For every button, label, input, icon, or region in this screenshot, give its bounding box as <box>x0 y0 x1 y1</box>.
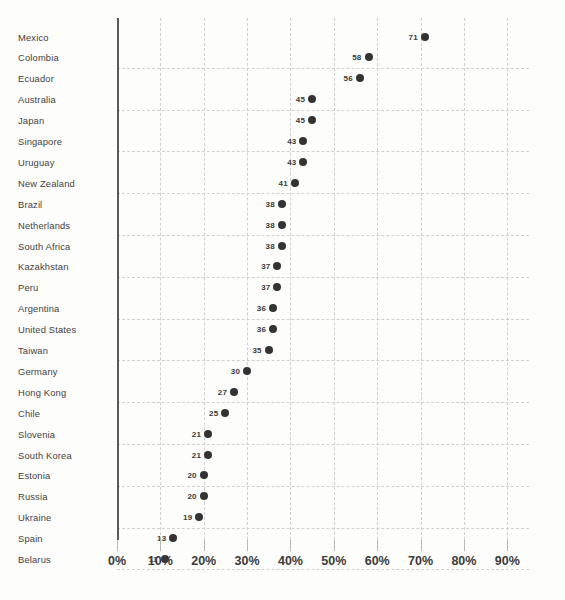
vertical-gridline-60pct <box>377 18 378 540</box>
x-axis-tick-mark <box>464 540 465 551</box>
data-point-dot[interactable] <box>195 513 203 521</box>
category-label: New Zealand <box>18 177 112 188</box>
data-point-value-label: 38 <box>265 220 274 229</box>
data-point-dot[interactable] <box>278 242 286 250</box>
data-point-dot[interactable] <box>204 451 212 459</box>
data-point-value-label: 38 <box>265 241 274 250</box>
data-point-value-label: 43 <box>287 157 296 166</box>
data-point-value-label: 45 <box>296 116 305 125</box>
category-label: Uruguay <box>18 156 112 167</box>
data-point-value-label: 37 <box>261 283 270 292</box>
category-label: Mexico <box>18 31 112 42</box>
x-axis-tick-label: 60% <box>365 554 390 568</box>
x-axis-tick-label: 30% <box>235 554 260 568</box>
category-label: Peru <box>18 282 112 293</box>
x-axis-tick-label: 50% <box>321 554 346 568</box>
data-point-dot[interactable] <box>221 409 229 417</box>
data-point-value-label: 21 <box>192 450 201 459</box>
data-point-dot[interactable] <box>200 471 208 479</box>
data-point-value-label: 30 <box>231 366 240 375</box>
data-point-dot[interactable] <box>200 492 208 500</box>
x-axis-tick-label: 80% <box>451 554 476 568</box>
x-axis-tick-mark <box>160 540 161 551</box>
category-label: Argentina <box>18 303 112 314</box>
category-label: Australia <box>18 94 112 105</box>
horizontal-gridline <box>117 486 529 487</box>
x-axis-tick-mark <box>117 540 118 551</box>
vertical-gridline-50pct <box>334 18 335 540</box>
x-axis-tick-mark <box>334 540 335 551</box>
data-point-value-label: 20 <box>187 471 196 480</box>
x-axis-tick-mark <box>507 540 508 551</box>
data-point-dot[interactable] <box>278 200 286 208</box>
horizontal-gridline <box>117 319 529 320</box>
data-point-value-label: 19 <box>183 513 192 522</box>
data-point-dot[interactable] <box>308 116 316 124</box>
category-label: Brazil <box>18 198 112 209</box>
horizontal-gridline <box>117 235 529 236</box>
category-label: Singapore <box>18 136 112 147</box>
category-label: South Korea <box>18 449 112 460</box>
plot-area: 7158564545434341383838373736363530272521… <box>117 18 529 540</box>
data-point-dot[interactable] <box>265 346 273 354</box>
x-axis-tick-label: 90% <box>495 554 520 568</box>
data-point-value-label: 36 <box>257 304 266 313</box>
category-label: Estonia <box>18 470 112 481</box>
category-label: Taiwan <box>18 345 112 356</box>
x-axis-tick-mark <box>247 540 248 551</box>
data-point-value-label: 20 <box>187 492 196 501</box>
data-point-value-label: 37 <box>261 262 270 271</box>
category-label: Russia <box>18 491 112 502</box>
data-point-dot[interactable] <box>299 137 307 145</box>
vertical-gridline-90pct <box>507 18 508 540</box>
data-point-dot[interactable] <box>204 430 212 438</box>
x-axis-tick-label: 20% <box>191 554 216 568</box>
x-axis: 0%10%20%30%40%50%60%70%80%90% <box>117 540 529 580</box>
data-point-dot[interactable] <box>269 304 277 312</box>
data-point-dot[interactable] <box>273 262 281 270</box>
vertical-gridline-80pct <box>464 18 465 540</box>
x-axis-tick-label: 0% <box>108 554 126 568</box>
category-label: Hong Kong <box>18 386 112 397</box>
data-point-dot[interactable] <box>278 221 286 229</box>
category-label: Germany <box>18 365 112 376</box>
dot-plot-chart: MexicoColombiaEcuadorAustraliaJapanSinga… <box>0 0 565 600</box>
data-point-dot[interactable] <box>243 367 251 375</box>
horizontal-gridline <box>117 151 529 152</box>
vertical-gridline-10pct <box>160 18 161 540</box>
data-point-value-label: 41 <box>278 178 287 187</box>
horizontal-gridline <box>117 68 529 69</box>
data-point-dot[interactable] <box>291 179 299 187</box>
x-axis-tick-mark <box>377 540 378 551</box>
data-point-dot[interactable] <box>421 33 429 41</box>
data-point-dot[interactable] <box>299 158 307 166</box>
category-label: United States <box>18 324 112 335</box>
horizontal-gridline <box>117 110 529 111</box>
vertical-gridline-20pct <box>204 18 205 540</box>
data-point-value-label: 36 <box>257 325 266 334</box>
category-label: Spain <box>18 533 112 544</box>
data-point-dot[interactable] <box>273 283 281 291</box>
data-point-value-label: 27 <box>218 387 227 396</box>
category-label: Ukraine <box>18 512 112 523</box>
data-point-dot[interactable] <box>365 53 373 61</box>
data-point-value-label: 21 <box>192 429 201 438</box>
x-axis-tick-label: 10% <box>148 554 173 568</box>
data-point-value-label: 38 <box>265 199 274 208</box>
x-axis-tick-mark <box>290 540 291 551</box>
horizontal-gridline <box>117 402 529 403</box>
data-point-value-label: 43 <box>287 137 296 146</box>
category-label: Slovenia <box>18 428 112 439</box>
data-point-dot[interactable] <box>230 388 238 396</box>
vertical-gridline-70pct <box>421 18 422 540</box>
vertical-gridline-40pct <box>290 18 291 540</box>
data-point-dot[interactable] <box>269 325 277 333</box>
x-axis-tick-mark <box>421 540 422 551</box>
category-label: Ecuador <box>18 73 112 84</box>
data-point-dot[interactable] <box>356 74 364 82</box>
category-label: Japan <box>18 115 112 126</box>
data-point-value-label: 58 <box>352 53 361 62</box>
horizontal-gridline <box>117 444 529 445</box>
y-axis-line <box>117 18 119 540</box>
data-point-dot[interactable] <box>308 95 316 103</box>
